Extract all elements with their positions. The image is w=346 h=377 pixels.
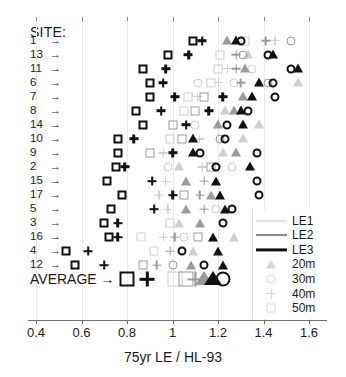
row-label-site-15: 15→ [30,175,61,187]
legend-label-20m: 20m [289,258,315,270]
data-point-16-LE1-30m [179,233,188,242]
site-number: 4 [30,245,47,257]
legend-row-30m: 30m [253,271,327,286]
chart-figure: SITE: 1→13→11→6→7→8→14→10→9→2→15→17→5→3→… [0,0,346,377]
data-point-14-LE3-20m [238,120,248,129]
data-point-16-LE2-50m [193,233,202,242]
arrow-icon: → [47,147,61,158]
data-point-6-LE3-40m [159,78,168,87]
data-point-8-LE1-50m [179,106,188,115]
legend-row-20m: 20m [253,257,327,272]
data-point-2-LE3-20m [245,162,255,171]
tick-top-1.2 [218,17,219,21]
data-point-12-LE3-50m [70,261,79,270]
data-point-16-LE1-50m [136,233,145,242]
data-point-12-LE3-20m [218,260,228,269]
data-point-10-LE2-50m [177,134,186,143]
data-point-16-LE2-40m [170,233,179,242]
legend-row-50m: 50m [253,301,327,316]
data-point-16-LE3-40m [113,233,122,242]
legend-marker-50m [267,304,276,313]
data-point-15-LE3-50m [102,177,111,186]
data-point-AVERAGE-LE3-50m [120,272,135,287]
data-point-6-LE3-50m [145,78,154,87]
row-label-site-17: 17→ [30,189,61,201]
data-point-6-LE3-30m [268,78,277,87]
data-point-8-LE3-50m [132,106,141,115]
x-tick-label-0.6: 0.6 [72,326,90,339]
row-label-site-9: 9→ [30,147,61,159]
row-label-site-6: 6→ [30,77,61,89]
site-number: 1 [30,35,47,47]
arrow-icon: → [47,91,61,102]
data-point-3-LE3-50m [100,219,109,228]
data-point-11-LE2-20m [240,64,250,73]
data-point-15-LE3-20m [211,176,221,185]
legend-row-LE2: LE2 [253,228,327,243]
row-label-site-7: 7→ [30,91,61,103]
arrow-icon: → [47,161,61,172]
site-number: 8 [30,105,47,117]
data-point-9-LE2-20m [231,148,241,157]
data-point-10-LE1-50m [166,134,175,143]
data-point-1-LE3-50m [188,36,197,45]
data-point-12-LE3-30m [200,261,209,270]
row-label-site-10: 10→ [30,133,61,145]
data-point-8-LE3-40m [157,106,166,115]
data-point-9-LE1-20m [218,148,228,157]
data-point-4-LE3-40m [84,247,93,256]
arrow-icon: → [47,245,61,256]
data-point-8-LE3-40m [204,106,213,115]
legend-label-LE2: LE2 [289,229,313,241]
legend-marker-40m [267,289,276,298]
data-point-7-LE2-50m [200,92,209,101]
site-number: 9 [30,147,47,159]
legend-label-30m: 30m [289,273,315,285]
data-point-14-LE3-50m [138,120,147,129]
tick-top-1.4 [264,17,265,21]
row-label-site-3: 3→ [30,217,61,229]
site-number: 10 [30,133,47,145]
arrow-icon: → [47,217,61,228]
data-point-17-LE2-50m [179,191,188,200]
row-label-site-8: 8→ [30,105,61,117]
legend-key-20m [253,257,289,272]
legend-row-LE1: LE1 [253,213,327,228]
data-point-17-LE2-40m [195,191,204,200]
data-point-AVERAGE-LE3-30m [215,272,230,287]
x-tick-label-0.4: 0.4 [27,326,45,339]
data-point-14-LE2-50m [168,120,177,129]
row-label-site-11: 11→ [30,63,61,75]
data-point-17-LE1-40m [154,191,163,200]
data-point-3-LE2-20m [195,218,205,227]
site-number: 2 [30,161,47,173]
arrow-icon: → [47,77,61,88]
legend-key-LE1 [253,213,289,228]
data-point-2-LE1-30m [227,162,236,171]
data-point-13-LE1-50m [216,50,225,59]
arrow-icon: → [47,105,61,116]
site-number: 16 [30,231,47,243]
data-point-12-LE2-40m [152,261,161,270]
data-point-2-LE1-20m [174,162,184,171]
tick-top-0.6 [82,17,83,21]
data-point-13-LE3-40m [184,50,193,59]
x-axis-line [28,320,327,321]
data-point-8-LE2-50m [191,106,200,115]
data-point-5-LE3-50m [107,205,116,214]
data-point-6-LE1-30m [193,78,202,87]
legend-label-50m: 50m [289,302,315,314]
data-point-6-LE1-20m [293,78,303,87]
data-point-AVERAGE-LE3-40m [140,272,155,287]
site-number: 15 [30,175,47,187]
legend-row-LE3: LE3 [253,242,327,257]
data-point-17-LE3-40m [168,191,177,200]
data-point-12-LE3-40m [100,261,109,270]
data-point-12-LE2-30m [168,261,177,270]
legend-key-40m [253,286,289,301]
data-point-14-LE3-30m [223,120,232,129]
data-point-5-LE2-20m [181,204,191,213]
row-label-site-5: 5→ [30,203,61,215]
data-point-4-LE2-40m [166,247,175,256]
arrow-icon: → [47,259,61,270]
